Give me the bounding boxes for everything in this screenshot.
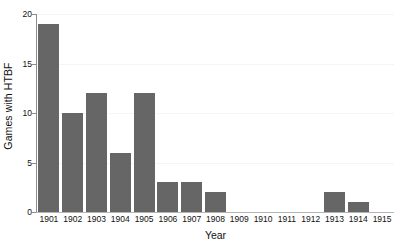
y-axis-tick-label: 20 xyxy=(23,9,32,19)
x-axis-tick-label: 1902 xyxy=(63,214,82,224)
bar[interactable] xyxy=(181,182,202,212)
bar-slot xyxy=(85,6,109,212)
bar-slot xyxy=(323,6,347,212)
x-axis-tick-label: 1911 xyxy=(278,214,296,224)
y-axis-tick-mark xyxy=(32,14,36,15)
y-axis-tick-label: 15 xyxy=(23,59,32,69)
bar-slot xyxy=(180,6,204,212)
bars-layer xyxy=(37,6,394,212)
x-axis-tick-label: 1907 xyxy=(182,214,201,224)
x-axis-tick-label: 1913 xyxy=(325,214,344,224)
x-axis-tick-label: 1908 xyxy=(206,214,225,224)
bar-slot xyxy=(204,6,228,212)
bar[interactable] xyxy=(157,182,178,212)
bar[interactable] xyxy=(324,192,345,212)
bar[interactable] xyxy=(348,202,369,212)
x-axis-title: Year xyxy=(37,229,394,241)
bar-slot xyxy=(61,6,85,212)
x-axis-tick-label: 1909 xyxy=(230,214,249,224)
plot-area xyxy=(37,6,394,212)
bar-slot xyxy=(156,6,180,212)
y-axis-tick-label: 10 xyxy=(23,108,32,118)
x-axis-tick-label: 1904 xyxy=(111,214,130,224)
bar-slot xyxy=(108,6,132,212)
bar[interactable] xyxy=(38,24,59,212)
bar-slot xyxy=(132,6,156,212)
y-axis-tick-mark xyxy=(32,64,36,65)
y-axis-title: Games with HTBF xyxy=(0,0,16,212)
bar[interactable] xyxy=(62,113,83,212)
y-axis-title-text: Games with HTBF xyxy=(2,62,14,149)
bar-slot xyxy=(227,6,251,212)
x-axis-tick-label: 1901 xyxy=(39,214,58,224)
x-axis-tick-labels: 1901190219031904190519061907190819091910… xyxy=(37,214,394,228)
bar-slot xyxy=(299,6,323,212)
bar[interactable] xyxy=(134,93,155,212)
x-axis-tick-label: 1914 xyxy=(349,214,368,224)
bar-chart: Games with HTBF 05101520 190119021903190… xyxy=(0,0,396,245)
y-axis-tick-mark xyxy=(32,113,36,114)
x-axis-tick-label: 1912 xyxy=(301,214,320,224)
x-axis-tick-label: 1906 xyxy=(158,214,177,224)
x-axis-tick-label: 1903 xyxy=(87,214,106,224)
bar[interactable] xyxy=(110,153,131,212)
y-axis-tick-labels: 05101520 xyxy=(16,0,34,245)
bar-slot xyxy=(37,6,61,212)
y-axis-tick-mark xyxy=(32,163,36,164)
x-axis-tick-label: 1915 xyxy=(373,214,392,224)
bar-slot xyxy=(251,6,275,212)
x-axis-line xyxy=(36,212,394,213)
bar-slot xyxy=(370,6,394,212)
bar[interactable] xyxy=(205,192,226,212)
x-axis-tick-label: 1910 xyxy=(254,214,273,224)
bar[interactable] xyxy=(86,93,107,212)
bar-slot xyxy=(346,6,370,212)
x-axis-tick-label: 1905 xyxy=(135,214,154,224)
bar-slot xyxy=(275,6,299,212)
